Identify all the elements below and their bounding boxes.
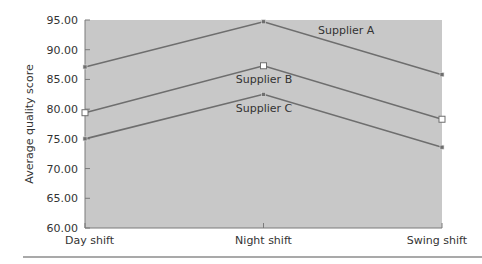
y-tick-label: 95.00: [47, 14, 79, 27]
data-point-marker: [262, 92, 266, 96]
y-tick-label: 65.00: [47, 192, 79, 205]
y-axis-title: Average quality score: [23, 64, 36, 184]
data-point-marker: [440, 73, 444, 77]
data-point-marker: [83, 137, 87, 141]
line-chart: 60.0065.0070.0075.0080.0085.0090.0095.00…: [0, 0, 482, 264]
data-point-marker: [262, 20, 266, 24]
data-point-marker: [439, 116, 445, 122]
y-tick-label: 85.00: [47, 73, 79, 86]
y-axis: 60.0065.0070.0075.0080.0085.0090.0095.00: [47, 14, 91, 235]
series-label: Supplier B: [236, 73, 292, 86]
data-point-marker: [440, 145, 444, 149]
x-tick-label: Day shift: [65, 234, 115, 247]
x-tick-label: Night shift: [235, 234, 292, 247]
data-point-marker: [261, 63, 267, 69]
data-point-marker: [83, 65, 87, 69]
series-label: Supplier C: [236, 102, 293, 115]
data-point-marker: [82, 110, 88, 116]
y-tick-label: 90.00: [47, 44, 79, 57]
x-tick-label: Swing shift: [407, 234, 468, 247]
series-label: Supplier A: [318, 24, 375, 37]
y-tick-label: 75.00: [47, 133, 79, 146]
y-tick-label: 80.00: [47, 103, 79, 116]
plot-area: [85, 20, 442, 228]
y-tick-label: 70.00: [47, 163, 79, 176]
